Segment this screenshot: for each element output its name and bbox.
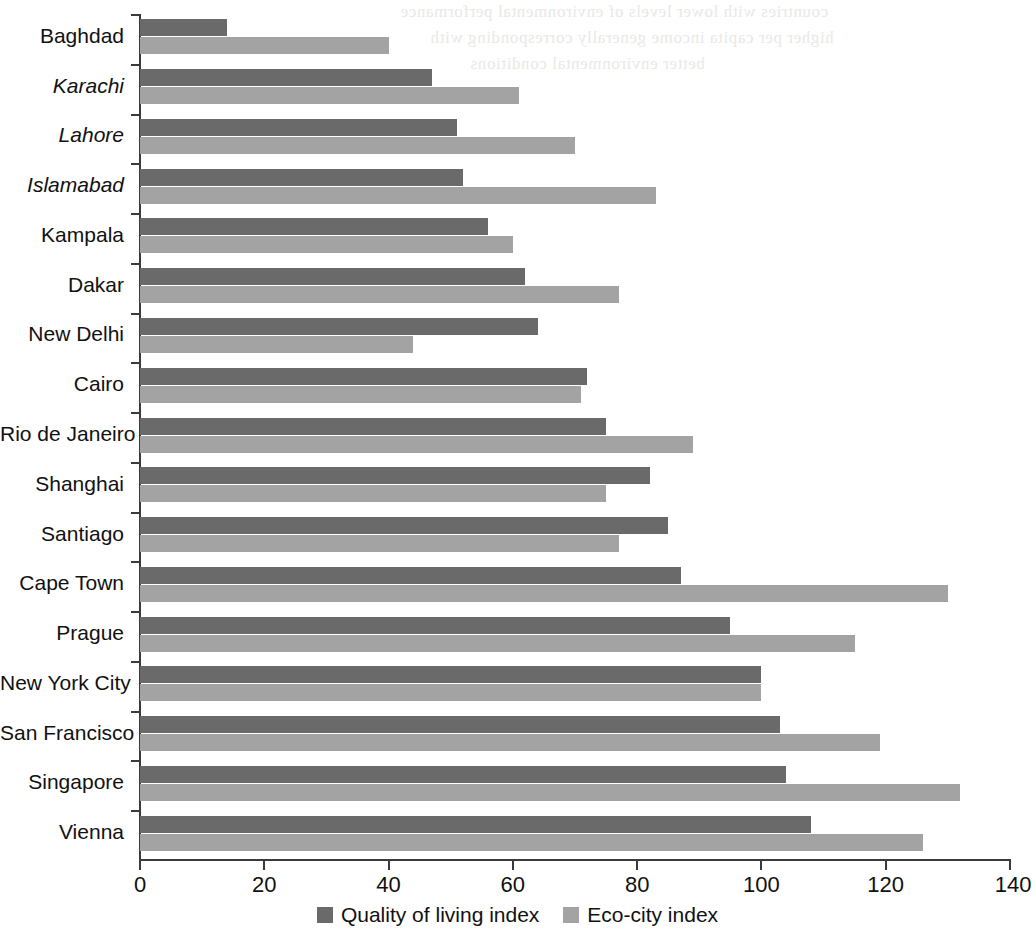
x-axis-tick-label: 80 — [625, 872, 649, 898]
y-axis-tick — [131, 412, 140, 414]
bar-quality-of-living[interactable] — [140, 19, 227, 36]
x-axis-tick — [636, 861, 638, 870]
y-axis-category-label: Baghdad — [0, 24, 124, 48]
chart-legend: Quality of living index Eco-city index — [0, 903, 1035, 927]
bar-quality-of-living[interactable] — [140, 218, 488, 235]
bar-quality-of-living[interactable] — [140, 567, 681, 584]
y-axis-tick — [131, 711, 140, 713]
x-axis-tick-label: 140 — [995, 872, 1032, 898]
x-axis-tick-label: 0 — [134, 872, 146, 898]
y-axis-category-label: New Delhi — [0, 322, 124, 346]
bar-eco-city[interactable] — [140, 436, 693, 453]
x-axis-tick — [760, 861, 762, 870]
x-axis-tick-label: 120 — [867, 872, 904, 898]
bar-eco-city[interactable] — [140, 137, 575, 154]
bar-quality-of-living[interactable] — [140, 517, 668, 534]
y-axis-tick — [131, 362, 140, 364]
bar-quality-of-living[interactable] — [140, 318, 538, 335]
bar-eco-city[interactable] — [140, 37, 389, 54]
bar-quality-of-living[interactable] — [140, 666, 761, 683]
y-axis-tick — [131, 810, 140, 812]
x-axis-tick — [388, 861, 390, 870]
y-axis-category-label: Prague — [0, 621, 124, 645]
y-axis-tick — [131, 661, 140, 663]
y-axis-category-label: Santiago — [0, 522, 124, 546]
bar-quality-of-living[interactable] — [140, 766, 786, 783]
bar-eco-city[interactable] — [140, 834, 923, 851]
y-axis-tick — [131, 64, 140, 66]
bar-quality-of-living[interactable] — [140, 268, 525, 285]
y-axis-category-label: Dakar — [0, 273, 124, 297]
y-axis-tick — [131, 611, 140, 613]
y-axis-category-label: Kampala — [0, 223, 124, 247]
y-axis-category-label: Rio de Janeiro — [0, 422, 124, 446]
legend-swatch-quality-of-living-icon — [317, 907, 333, 923]
y-axis-tick — [131, 114, 140, 116]
bar-eco-city[interactable] — [140, 236, 513, 253]
bar-eco-city[interactable] — [140, 784, 960, 801]
plot-area — [140, 14, 1010, 860]
y-axis-category-label: Islamabad — [0, 173, 124, 197]
bar-eco-city[interactable] — [140, 286, 619, 303]
legend-item-quality-of-living[interactable]: Quality of living index — [317, 903, 539, 927]
legend-label-quality-of-living: Quality of living index — [341, 903, 539, 927]
x-axis-tick — [1009, 861, 1011, 870]
y-axis-tick — [131, 760, 140, 762]
y-axis-category-label: Cairo — [0, 372, 124, 396]
bar-quality-of-living[interactable] — [140, 418, 606, 435]
legend-label-eco-city: Eco-city index — [587, 903, 718, 927]
x-axis-tick — [139, 861, 141, 870]
x-axis-tick — [512, 861, 514, 870]
x-axis-tick — [263, 861, 265, 870]
bar-quality-of-living[interactable] — [140, 69, 432, 86]
bar-eco-city[interactable] — [140, 336, 413, 353]
x-axis-tick-label: 20 — [252, 872, 276, 898]
y-axis-tick — [131, 213, 140, 215]
bar-eco-city[interactable] — [140, 585, 948, 602]
bar-eco-city[interactable] — [140, 684, 761, 701]
bar-quality-of-living[interactable] — [140, 467, 650, 484]
bar-quality-of-living[interactable] — [140, 716, 780, 733]
y-axis-category-label: Shanghai — [0, 472, 124, 496]
x-axis-tick — [885, 861, 887, 870]
y-axis-category-label: Vienna — [0, 820, 124, 844]
bar-eco-city[interactable] — [140, 734, 880, 751]
x-axis-tick-label: 100 — [743, 872, 780, 898]
bar-quality-of-living[interactable] — [140, 169, 463, 186]
bar-eco-city[interactable] — [140, 187, 656, 204]
y-axis-tick — [131, 263, 140, 265]
y-axis-tick — [131, 14, 140, 16]
bar-eco-city[interactable] — [140, 386, 581, 403]
x-axis-tick-label: 60 — [501, 872, 525, 898]
grouped-bar-chart: 020406080100120140 Quality of living ind… — [0, 0, 1035, 933]
x-axis-tick-label: 40 — [376, 872, 400, 898]
y-axis-tick — [131, 462, 140, 464]
legend-item-eco-city[interactable]: Eco-city index — [563, 903, 718, 927]
bar-eco-city[interactable] — [140, 485, 606, 502]
bar-eco-city[interactable] — [140, 87, 519, 104]
y-axis-category-label: San Francisco — [0, 721, 124, 745]
bar-quality-of-living[interactable] — [140, 119, 457, 136]
y-axis-tick — [131, 313, 140, 315]
y-axis-tick — [131, 512, 140, 514]
bar-eco-city[interactable] — [140, 535, 619, 552]
bar-quality-of-living[interactable] — [140, 816, 811, 833]
bar-eco-city[interactable] — [140, 635, 855, 652]
y-axis-tick — [131, 163, 140, 165]
y-axis-category-label: Karachi — [0, 74, 124, 98]
y-axis-category-label: Singapore — [0, 770, 124, 794]
bar-quality-of-living[interactable] — [140, 617, 730, 634]
y-axis-category-label: Lahore — [0, 123, 124, 147]
bar-quality-of-living[interactable] — [140, 368, 587, 385]
legend-swatch-eco-city-icon — [563, 907, 579, 923]
y-axis-tick — [131, 561, 140, 563]
y-axis-category-label: Cape Town — [0, 571, 124, 595]
y-axis-category-label: New York City — [0, 671, 124, 695]
